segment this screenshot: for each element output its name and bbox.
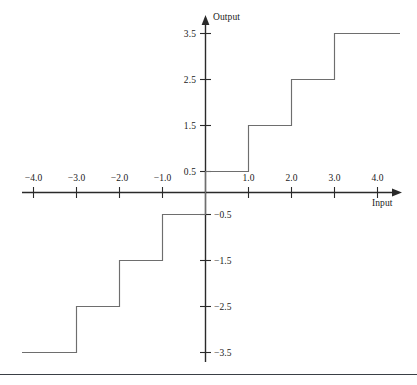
y-axis-arrow-icon <box>202 15 210 25</box>
y-tick-label-pos3p5: 3.5 <box>171 28 196 39</box>
y-tick-label-pos2p5: 2.5 <box>171 74 196 85</box>
footer-caption <box>0 377 417 385</box>
plot-canvas <box>0 0 417 385</box>
x-tick-label-neg2: −2.0 <box>111 173 129 184</box>
x-tick-label-pos2: 2.0 <box>285 173 297 184</box>
x-tick-label-neg1: −1.0 <box>154 173 172 184</box>
x-tick-label-pos3: 3.0 <box>328 173 340 184</box>
y-tick-label-pos1p5: 1.5 <box>171 120 196 131</box>
y-tick-label-neg2p5: −2.5 <box>214 301 232 312</box>
y-axis-title: Output <box>213 12 240 23</box>
footer-divider <box>0 374 417 375</box>
x-axis-title: Input <box>372 198 393 209</box>
y-tick-label-neg0p5: −0.5 <box>214 209 232 220</box>
quantizer-chart: −4.0 −3.0 −2.0 −1.0 1.0 2.0 3.0 4.0 3.5 … <box>0 0 417 385</box>
x-axis-group <box>22 189 402 197</box>
x-axis-arrow-icon <box>392 189 402 197</box>
y-tick-label-pos0p5: 0.5 <box>171 166 196 177</box>
y-tick-label-neg1p5: −1.5 <box>214 255 232 266</box>
x-tick-label-pos4: 4.0 <box>371 173 383 184</box>
x-tick-label-neg4: −4.0 <box>25 173 43 184</box>
x-tick-label-neg3: −3.0 <box>68 173 86 184</box>
y-tick-label-neg3p5: −3.5 <box>214 347 232 358</box>
x-tick-label-pos1: 1.0 <box>242 173 254 184</box>
